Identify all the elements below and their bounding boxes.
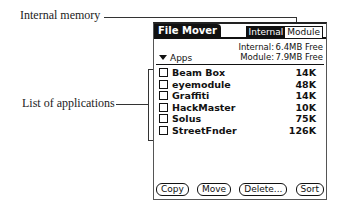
copy-button[interactable]: Copy	[156, 183, 189, 196]
file-name: HackMaster	[172, 102, 295, 113]
list-item[interactable]: Beam Box14K	[159, 67, 316, 79]
button-bar: Copy Move Delete... Sort	[156, 183, 324, 196]
file-name: Graffiti	[172, 90, 295, 101]
checkbox[interactable]	[159, 68, 168, 77]
file-size: 14K	[295, 90, 316, 101]
checkbox[interactable]	[159, 80, 168, 89]
delete-button[interactable]: Delete...	[239, 183, 287, 196]
list-divider	[156, 64, 324, 65]
sort-button[interactable]: Sort	[296, 183, 324, 196]
file-name: Solus	[172, 113, 295, 124]
memory-segmented-control[interactable]: Internal Module	[246, 26, 323, 39]
memory-values: 6.4MB Free 7.9MB Free	[276, 42, 323, 62]
file-size: 10K	[295, 102, 316, 113]
callout-line-list	[116, 104, 148, 105]
checkbox[interactable]	[159, 103, 168, 112]
file-name: StreetFnder	[172, 125, 289, 136]
file-size: 48K	[295, 79, 316, 90]
checkbox[interactable]	[159, 126, 168, 135]
file-size: 75K	[295, 113, 316, 124]
list-item[interactable]: Graffiti14K	[159, 90, 316, 102]
file-size: 14K	[295, 67, 316, 78]
memory-labels: Internal: Module:	[238, 42, 274, 62]
callout-list-of-applications: List of applications	[22, 96, 115, 111]
list-item[interactable]: HackMaster10K	[159, 102, 316, 114]
file-name: Beam Box	[172, 67, 295, 78]
callout-bracket-vertical	[148, 69, 149, 141]
category-picker[interactable]: Apps	[159, 53, 192, 63]
checkbox[interactable]	[159, 114, 168, 123]
internal-free: 6.4MB Free	[276, 42, 323, 52]
list-item[interactable]: eyemodule48K	[159, 79, 316, 91]
module-label: Module:	[238, 52, 274, 62]
triangle-down-icon	[159, 55, 167, 60]
segment-module[interactable]: Module	[285, 27, 322, 38]
callout-internal-memory: Internal memory	[20, 8, 100, 23]
list-item[interactable]: Solus75K	[159, 113, 316, 125]
checkbox[interactable]	[159, 91, 168, 100]
list-item[interactable]: StreetFnder126K	[159, 125, 316, 137]
file-list: Beam Box14K eyemodule48K Graffiti14K Hac…	[159, 67, 316, 136]
callout-line-internal-memory	[104, 17, 296, 18]
module-free: 7.9MB Free	[276, 52, 323, 62]
category-label: Apps	[170, 53, 192, 63]
segment-internal[interactable]: Internal	[247, 27, 286, 38]
palm-screen: File Mover Internal Module Internal: Mod…	[153, 22, 327, 200]
move-button[interactable]: Move	[197, 183, 231, 196]
file-size: 126K	[289, 125, 316, 136]
file-name: eyemodule	[172, 79, 295, 90]
internal-label: Internal:	[238, 42, 274, 52]
app-title: File Mover	[154, 24, 221, 38]
